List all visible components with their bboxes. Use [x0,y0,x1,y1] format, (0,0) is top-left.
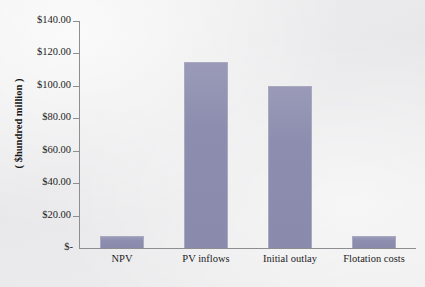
bar-npv [100,236,144,248]
y-axis-tick-mark [73,53,80,54]
y-axis-tick-label: $40.00 [0,176,71,187]
plot-area [80,21,416,248]
y-axis-tick-mark [73,216,80,217]
x-axis-label-pv-inflows: PV inflows [164,253,248,264]
y-axis-tick-label: $60.00 [0,144,71,155]
y-axis-tick-mark [73,86,80,87]
y-axis-tick-label: $80.00 [0,111,71,122]
y-axis-zero-label: $- [40,241,73,252]
y-axis-tick-label: $120.00 [0,46,71,57]
x-axis-line [79,248,416,249]
x-axis-label-initial-outlay: Initial outlay [248,253,332,264]
y-axis-tick-label: $100.00 [0,79,71,90]
y-axis-tick-label: $20.00 [0,209,71,220]
y-axis-tick-label: $140.00 [0,14,71,25]
y-axis-tick-mark [73,183,80,184]
bar-pv-inflows [184,62,228,248]
bar-flotation-costs [352,236,396,248]
x-axis-label-flotation-costs: Flotation costs [332,253,416,264]
y-axis-tick-mark [73,21,80,22]
y-axis-tick-mark [73,151,80,152]
bar-chart-figure: ( $hundred million ) $140.00$120.00$100.… [0,0,425,287]
y-axis-tick-mark [73,118,80,119]
bar-initial-outlay [268,86,312,248]
x-axis-label-npv: NPV [80,253,164,264]
